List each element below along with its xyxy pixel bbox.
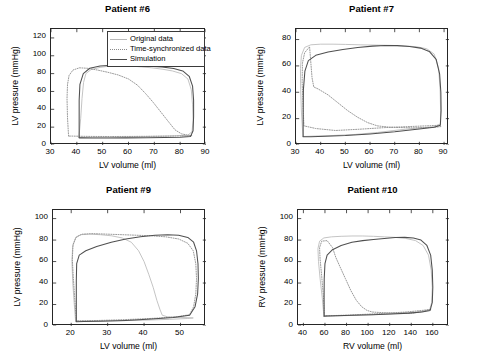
y-tick-label: 100 [17, 49, 46, 58]
y-tick-label: 20 [264, 298, 293, 307]
series-line [67, 68, 192, 137]
series-line [320, 241, 432, 316]
y-axis-label: RV pressure (mmHg) [257, 209, 267, 325]
y-tick-label: 120 [17, 31, 46, 40]
x-axis-label: LV volume (ml) [295, 160, 448, 170]
legend-line-icon [110, 39, 127, 40]
legend-item-label: Original data [130, 34, 173, 44]
x-tick-label: 80 [165, 147, 193, 156]
legend-item: Original data [110, 34, 201, 44]
y-tick-label: 100 [19, 212, 48, 221]
legend-line-icon [110, 49, 127, 50]
y-tick-label: 40 [262, 86, 291, 95]
pv-loop-figure: Patient #602040608010012030405060708090L… [0, 0, 486, 361]
axes-area [295, 28, 448, 144]
legend-item-label: Time-synchronized data [130, 44, 211, 54]
legend-item-label: Simulation [130, 54, 165, 64]
series-line [76, 235, 198, 322]
x-axis-label: LV volume (ml) [50, 160, 205, 170]
axes-area [52, 209, 205, 325]
series-line [303, 45, 441, 136]
y-axis-label: LV pressure (mmHg) [12, 209, 22, 325]
y-tick-label: 80 [264, 234, 293, 243]
x-axis-label: RV volume (ml) [297, 341, 448, 351]
plot-title: Patient #9 [52, 184, 205, 195]
legend-item: Time-synchronized data [110, 44, 201, 54]
x-tick-label: 30 [36, 147, 64, 156]
x-tick-label: 40 [129, 328, 157, 337]
subplot-patient-3: Patient #902040608010020304050LV volume … [0, 181, 243, 361]
y-tick-label: 80 [262, 33, 291, 42]
x-tick-label: 40 [62, 147, 90, 156]
legend-line-icon [110, 59, 127, 60]
y-tick-label: 60 [19, 255, 48, 264]
series-line [300, 44, 440, 136]
y-tick-label: 40 [17, 103, 46, 112]
y-tick-label: 100 [264, 212, 293, 221]
x-tick-label: 160 [418, 328, 446, 337]
x-tick-label: 20 [56, 328, 84, 337]
y-axis-label: LV pressure (mmHg) [255, 28, 265, 144]
plot-title: Patient #6 [50, 3, 205, 14]
legend: Original dataTime-synchronized dataSimul… [107, 31, 205, 67]
subplot-patient-4: Patient #1002040608010040608010012014016… [243, 181, 486, 361]
x-tick-label: 60 [114, 147, 142, 156]
legend-item: Simulation [110, 54, 201, 64]
y-tick-label: 40 [19, 277, 48, 286]
y-tick-label: 60 [264, 255, 293, 264]
y-tick-label: 0 [19, 320, 48, 329]
plot-title: Patient #7 [295, 3, 448, 14]
x-tick-label: 30 [93, 328, 121, 337]
series-line [302, 47, 441, 131]
y-tick-label: 60 [17, 85, 46, 94]
y-tick-label: 60 [262, 59, 291, 68]
x-tick-label: 50 [88, 147, 116, 156]
series-line [79, 66, 193, 138]
series-line [72, 234, 193, 321]
y-tick-label: 80 [19, 234, 48, 243]
plot-title: Patient #10 [297, 184, 448, 195]
series-line [72, 234, 196, 321]
x-tick-label: 90 [191, 147, 219, 156]
x-tick-label: 50 [166, 328, 194, 337]
axes-area [297, 209, 448, 325]
y-tick-label: 20 [19, 298, 48, 307]
y-tick-label: 20 [262, 112, 291, 121]
y-tick-label: 20 [17, 121, 46, 130]
subplot-patient-1: Patient #602040608010012030405060708090L… [0, 0, 243, 180]
subplot-patient-2: Patient #702040608030405060708090LV volu… [243, 0, 486, 180]
series-line [79, 65, 193, 138]
x-tick-label: 90 [429, 147, 457, 156]
x-tick-label: 70 [139, 147, 167, 156]
y-axis-label: LV pressure (mmHg) [10, 28, 20, 144]
x-axis-label: LV volume (ml) [52, 341, 205, 351]
series-line [324, 237, 433, 316]
y-tick-label: 80 [17, 67, 46, 76]
y-tick-label: 40 [264, 277, 293, 286]
